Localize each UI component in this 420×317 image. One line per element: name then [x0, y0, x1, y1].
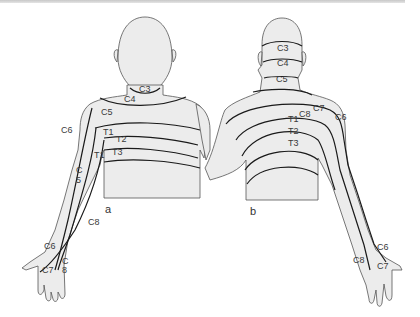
label-post-c8-hand: C8 [353, 256, 365, 265]
label-ant-c5-arm-5: 5 [76, 176, 81, 185]
label-ant-t3: T3 [112, 148, 123, 157]
label-ant-t1-arm: T1 [94, 151, 105, 160]
label-post-c7: C7 [313, 104, 325, 113]
label-post-c5: C5 [276, 75, 288, 84]
label-post-c8: C8 [299, 110, 311, 119]
label-post-c7-hand: C7 [377, 262, 389, 271]
label-ant-c6-hand: C6 [44, 242, 56, 251]
label-post-t3: T3 [288, 139, 299, 148]
posterior-body [205, 18, 402, 306]
label-ant-c5: C5 [101, 108, 113, 117]
label-post-c4: C4 [277, 59, 289, 68]
label-ant-t1: T1 [103, 128, 114, 137]
label-ant-c6: C6 [61, 126, 73, 135]
label-ant-c4: C4 [124, 95, 136, 104]
label-post-t2: T2 [288, 127, 299, 136]
label-ant-c8: C8 [88, 218, 100, 227]
panel-label-a: a [105, 203, 111, 215]
label-post-c6: C6 [335, 113, 347, 122]
label-post-t1: T1 [288, 115, 299, 124]
label-post-c6-hand: C6 [377, 243, 389, 252]
label-ant-c3: C3 [139, 85, 151, 94]
panel-label-b: b [250, 205, 256, 217]
label-ant-t2: T2 [116, 135, 127, 144]
anterior-body [22, 17, 210, 301]
label-ant-c7-hand: C7 [42, 266, 54, 275]
label-post-c3: C3 [277, 44, 289, 53]
label-ant-c5-arm-c: C [76, 166, 83, 175]
label-ant-c8-hand-8: 8 [62, 266, 67, 275]
